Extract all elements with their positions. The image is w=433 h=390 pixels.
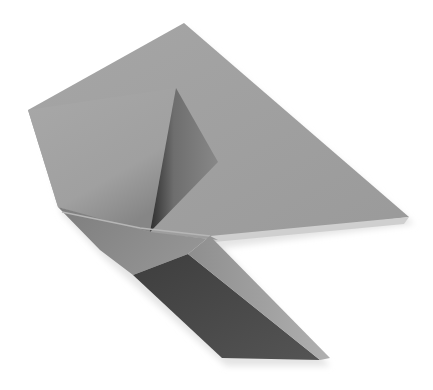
origami-photo (0, 0, 433, 390)
origami-illustration (0, 0, 433, 390)
left-flap (28, 88, 176, 232)
